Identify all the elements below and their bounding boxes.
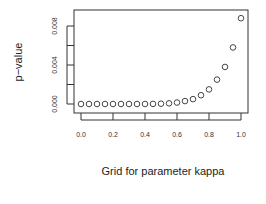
data-point <box>86 101 92 107</box>
data-point <box>198 92 204 98</box>
data-point <box>206 87 212 93</box>
x-tick-label: 0.2 <box>108 131 118 138</box>
data-point <box>150 101 156 107</box>
y-axis-title: p−value <box>12 43 24 82</box>
data-point <box>158 101 164 107</box>
data-point <box>230 45 236 51</box>
x-tick-label: 0.0 <box>76 131 86 138</box>
y-axis: 0.0000.0040.008 <box>51 17 74 113</box>
x-axis-title: Grid for parameter kappa <box>102 165 226 177</box>
data-point <box>142 101 148 107</box>
x-tick-label: 0.8 <box>204 131 214 138</box>
x-axis: 0.00.20.40.60.81.0 <box>76 113 246 138</box>
data-point <box>126 101 132 107</box>
x-tick-label: 0.4 <box>140 131 150 138</box>
data-point <box>102 101 108 107</box>
y-tick-label: 0.008 <box>51 17 58 35</box>
data-point <box>134 101 140 107</box>
data-point <box>174 100 180 106</box>
data-point <box>214 77 220 83</box>
data-point <box>118 101 124 107</box>
data-point <box>94 101 100 107</box>
plot-frame <box>74 10 248 113</box>
y-tick-label: 0.004 <box>51 56 58 74</box>
data-point <box>222 64 228 70</box>
data-point <box>78 101 84 107</box>
y-tick-label: 0.000 <box>51 95 58 113</box>
x-tick-label: 0.6 <box>172 131 182 138</box>
data-point <box>110 101 116 107</box>
data-point <box>166 101 172 107</box>
x-tick-label: 1.0 <box>236 131 246 138</box>
data-point <box>238 15 244 21</box>
data-points <box>78 15 244 106</box>
data-point <box>190 96 196 102</box>
data-point <box>182 98 188 104</box>
scatter-chart: 0.0000.0040.008 0.00.20.40.60.81.0 Grid … <box>0 0 266 204</box>
